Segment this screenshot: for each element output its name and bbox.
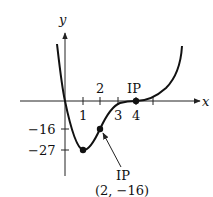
y-tick-label-minus27: −27	[28, 143, 55, 158]
x-tick-label-2: 2	[96, 81, 104, 96]
inflection-point-4-0	[133, 98, 139, 104]
y-axis-label: y	[58, 12, 67, 27]
ip-pointer-arrow	[103, 133, 121, 167]
function-graph: x y 1 2 3 4 −16 −27 IP IP (2, −16)	[0, 0, 213, 197]
ip-label-4: IP	[127, 81, 141, 96]
x-tick-label-4: 4	[132, 108, 140, 123]
minimum-point	[80, 147, 86, 153]
ip-coord-label: (2, −16)	[95, 183, 149, 197]
x-tick-label-3: 3	[114, 108, 122, 123]
inflection-point-2-minus16	[97, 126, 103, 132]
ip-label-2: IP	[116, 168, 130, 183]
function-curve	[57, 44, 182, 150]
x-axis-label: x	[202, 94, 210, 109]
x-tick-label-1: 1	[79, 108, 87, 123]
y-tick-label-minus16: −16	[28, 122, 55, 137]
